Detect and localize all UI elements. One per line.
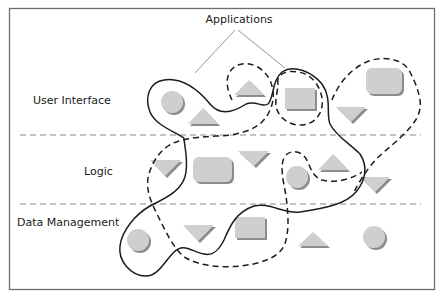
applications-title: Applications: [205, 13, 272, 26]
tier-label-user-interface: User Interface: [33, 94, 111, 107]
ui-circle: [161, 91, 183, 113]
data-rectangle: [235, 217, 265, 238]
logic-circle: [286, 166, 308, 188]
tier-label-data-management: Data Management: [17, 216, 120, 229]
ui-rounded-rectangle: [366, 68, 402, 94]
data-circle-1: [127, 229, 149, 251]
architecture-diagram: Applications User Interface Logic Data M…: [0, 0, 443, 297]
tier-label-logic: Logic: [84, 165, 113, 178]
data-circle-2: [363, 226, 385, 248]
ui-rectangle: [285, 88, 315, 109]
logic-rounded-rectangle: [193, 157, 232, 182]
